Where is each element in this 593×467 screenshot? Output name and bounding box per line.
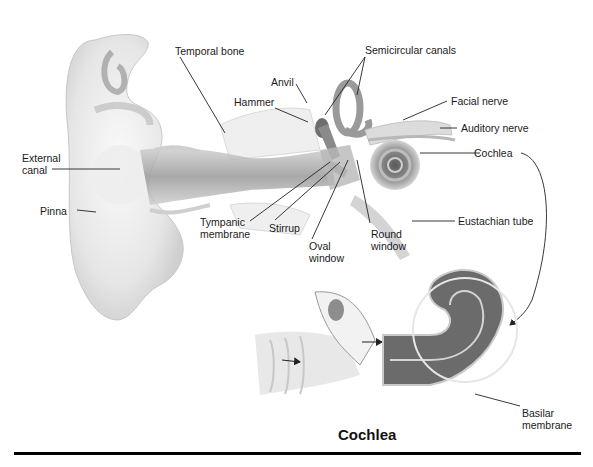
label-pinna: Pinna	[40, 205, 67, 217]
label-hammer: Hammer	[234, 96, 274, 108]
nerves-shape	[365, 121, 452, 145]
bottom-rule-divider	[14, 452, 581, 455]
label-round-window-line2: window	[371, 240, 406, 252]
label-stirrup: Stirrup	[269, 222, 300, 234]
label-semicircular-canals: Semicircular canals	[365, 44, 456, 56]
external-canal-shape	[140, 148, 335, 205]
label-eustachian-tube: Eustachian tube	[458, 215, 533, 227]
temporal-bone-shape	[220, 108, 320, 160]
cochlea-shape	[370, 140, 420, 190]
label-anvil: Anvil	[271, 76, 294, 88]
label-cochlea: Cochlea	[474, 147, 513, 159]
label-tympanic-membrane-line1: Tympanic	[200, 216, 245, 228]
semicircular-canals-shape	[336, 83, 369, 134]
label-facial-nerve: Facial nerve	[451, 95, 508, 107]
label-oval-window-line2: window	[309, 252, 344, 264]
label-tympanic-membrane-line2: membrane	[200, 228, 250, 240]
inset-title-cochlea: Cochlea	[338, 426, 396, 443]
label-oval-window-line1: Oval	[309, 240, 331, 252]
label-temporal-bone: Temporal bone	[175, 45, 244, 57]
label-auditory-nerve: Auditory nerve	[461, 122, 529, 134]
label-basilar-membrane-line2: membrane	[522, 419, 572, 431]
label-basilar-membrane-line1: Basilar	[522, 407, 554, 419]
label-round-window-line1: Round	[371, 228, 402, 240]
cochlea-inset-illustration	[255, 270, 517, 395]
label-external-canal-line1: External	[22, 152, 61, 164]
label-external-canal-line2: canal	[22, 164, 47, 176]
